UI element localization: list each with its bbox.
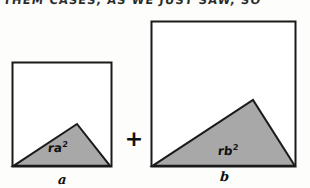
area-label-rb2: rb2 bbox=[217, 145, 238, 157]
area-label-rb2-exponent: 2 bbox=[232, 143, 239, 152]
side-label-a: a bbox=[58, 173, 67, 186]
figures-svg bbox=[0, 0, 310, 188]
plus-operator: + bbox=[124, 128, 144, 150]
area-label-ra2: ra2 bbox=[47, 142, 68, 154]
area-label-ra2-exponent: 2 bbox=[62, 140, 69, 149]
diagram-canvas: THEM CASES, AS WE JUST SAW, SO + ra2 rb2… bbox=[0, 0, 310, 188]
area-label-rb2-base: rb bbox=[217, 144, 233, 158]
figures-group bbox=[0, 0, 310, 188]
area-label-ra2-base: ra bbox=[47, 141, 62, 155]
side-label-b: b bbox=[220, 170, 230, 183]
